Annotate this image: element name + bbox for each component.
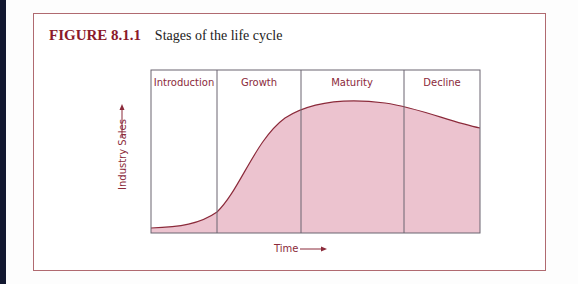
y-arrowhead-icon [120, 104, 125, 110]
sales-area [151, 101, 480, 233]
stage-label-maturity: Maturity [331, 77, 373, 88]
stage-label-introduction: Introduction [154, 77, 215, 88]
lifecycle-chart: Introduction Growth Maturity Decline Ind… [0, 0, 578, 284]
stage-label-decline: Decline [423, 77, 460, 88]
x-arrowhead-icon [321, 247, 327, 252]
x-axis-label: Time [273, 243, 298, 254]
stage-label-growth: Growth [241, 77, 277, 88]
